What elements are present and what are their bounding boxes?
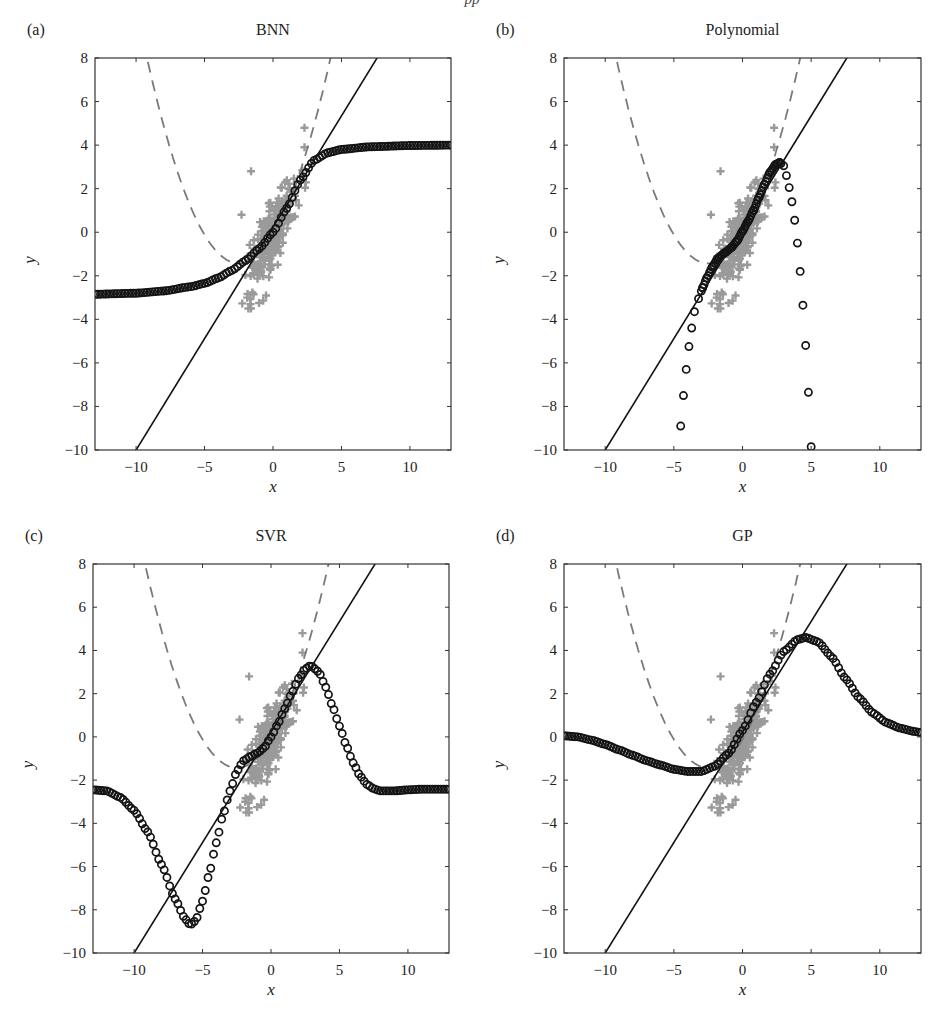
panel-bnn: −10−50510−10−8−6−4−202468xyBNN(a)	[20, 6, 455, 496]
y-tick-label: 8	[81, 50, 89, 66]
y-tick-label: −8	[541, 902, 557, 918]
y-tick-label: 4	[81, 137, 89, 153]
y-tick-label: −4	[70, 815, 86, 831]
panel-title: GP	[732, 527, 753, 544]
x-tick-label: 5	[338, 459, 346, 475]
y-tick-label: 2	[550, 686, 558, 702]
x-tick-label: 5	[336, 962, 344, 978]
y-tick-label: 2	[79, 686, 87, 702]
dashed-parabola	[136, 6, 341, 263]
panel-label: (c)	[25, 527, 43, 545]
panel-label: (a)	[27, 21, 45, 39]
y-tick-label: −10	[65, 442, 88, 458]
figure-canvas: −10−50510−10−8−6−4−202468xyBNN(a) −10−50…	[0, 0, 944, 1027]
y-axis-label: y	[489, 760, 508, 770]
panel-svr: −10−50510−10−8−6−4−202468xySVR(c)	[18, 513, 453, 1000]
x-axis-label: x	[738, 980, 747, 999]
y-tick-label: 2	[81, 181, 89, 197]
x-axis-label: x	[738, 477, 747, 496]
y-tick-label: −4	[72, 311, 88, 327]
x-tick-label: −10	[124, 459, 147, 475]
y-tick-label: 6	[550, 599, 558, 615]
plot-area	[91, 6, 454, 494]
y-tick-label: −10	[63, 945, 86, 961]
true-function-line	[109, 27, 397, 495]
y-tick-label: −2	[70, 772, 86, 788]
y-tick-label: 0	[79, 729, 87, 745]
y-tick-label: 0	[550, 729, 558, 745]
panel-polynomial: −10−50510−10−8−6−4−202468xyPolynomial(b)	[489, 6, 921, 496]
y-tick-label: −2	[541, 772, 557, 788]
x-tick-label: 5	[807, 962, 815, 978]
plot-area	[560, 513, 924, 998]
prediction-circles	[89, 663, 452, 928]
x-tick-label: 10	[400, 962, 415, 978]
y-tick-label: 2	[550, 181, 558, 197]
y-tick-label: 0	[81, 224, 89, 240]
y-tick-label: 4	[79, 642, 87, 658]
x-tick-label: −5	[666, 459, 682, 475]
training-data-scatter	[707, 124, 780, 313]
plot-area	[578, 6, 866, 494]
y-tick-label: 8	[550, 50, 558, 66]
y-tick-label: −4	[541, 311, 557, 327]
dashed-parabola	[605, 6, 811, 263]
x-tick-label: −5	[195, 962, 211, 978]
x-tick-label: 10	[872, 962, 887, 978]
y-tick-label: −6	[541, 355, 557, 371]
x-tick-label: −10	[593, 459, 616, 475]
y-axis-label: y	[18, 760, 37, 770]
y-tick-label: 6	[79, 599, 87, 615]
y-tick-label: 6	[81, 94, 89, 110]
y-tick-label: −2	[541, 268, 557, 284]
y-axis-label: y	[20, 256, 39, 266]
y-tick-label: −10	[534, 945, 557, 961]
x-tick-label: 0	[739, 459, 747, 475]
x-tick-label: −10	[122, 962, 145, 978]
y-tick-label: −2	[72, 268, 88, 284]
y-tick-label: −8	[72, 398, 88, 414]
y-tick-label: −8	[541, 398, 557, 414]
y-tick-label: −6	[70, 859, 86, 875]
x-tick-label: 10	[872, 459, 887, 475]
x-tick-label: −5	[197, 459, 213, 475]
y-axis-label: y	[489, 256, 508, 266]
plot-area	[89, 513, 452, 998]
panel-gp: −10−50510−10−8−6−4−202468xyGP(d)	[489, 513, 925, 1000]
x-tick-label: 0	[739, 962, 747, 978]
panel-label: (b)	[496, 21, 515, 39]
training-data-scatter	[236, 629, 308, 816]
panel-title: BNN	[256, 21, 290, 38]
y-tick-label: 0	[550, 224, 558, 240]
x-tick-label: 0	[269, 459, 277, 475]
y-tick-label: −4	[541, 815, 557, 831]
panel-title: SVR	[255, 527, 286, 544]
y-tick-label: 8	[79, 556, 87, 572]
y-tick-label: 6	[550, 94, 558, 110]
x-tick-label: −10	[593, 962, 616, 978]
y-tick-label: −6	[541, 859, 557, 875]
x-axis-label: x	[266, 980, 275, 999]
y-tick-label: −10	[534, 442, 557, 458]
x-tick-label: 0	[267, 962, 275, 978]
panel-label: (d)	[496, 527, 515, 545]
panel-title: Polynomial	[706, 21, 780, 39]
x-tick-label: 10	[402, 459, 417, 475]
dashed-parabola	[134, 513, 339, 768]
x-tick-label: 5	[807, 459, 815, 475]
x-tick-label: −5	[666, 962, 682, 978]
y-tick-label: −6	[72, 355, 88, 371]
y-tick-label: −8	[70, 902, 86, 918]
x-axis-label: x	[268, 477, 277, 496]
training-data-scatter	[238, 124, 310, 313]
y-tick-label: 8	[550, 556, 558, 572]
y-tick-label: 4	[550, 642, 558, 658]
y-tick-label: 4	[550, 137, 558, 153]
dashed-parabola	[605, 513, 811, 768]
